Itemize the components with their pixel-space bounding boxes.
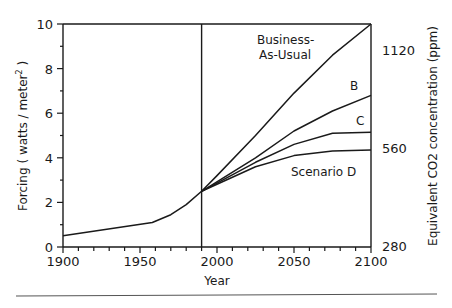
x-tick-label: 1900 <box>46 254 79 269</box>
y-tick-label: 0 <box>45 240 53 255</box>
right-tick-label: 560 <box>382 141 407 156</box>
y-tick-label: 8 <box>45 62 53 77</box>
y-axis-label: Forcing ( watts / meter2 ) <box>15 61 30 211</box>
series-historical <box>63 191 202 236</box>
x-tick-label: 2000 <box>200 254 233 269</box>
label-scenario-d: Scenario D <box>291 165 356 179</box>
x-tick-label: 1950 <box>123 254 156 269</box>
x-tick-label: 2100 <box>354 254 387 269</box>
y-tick-label: 2 <box>45 195 53 210</box>
right-tick-label: 1120 <box>382 43 415 58</box>
label-business-as-usual-1: Business- <box>257 33 314 47</box>
bottom-rule <box>16 294 437 296</box>
forcing-chart: 1900195020002050210002468102805601120 Fo… <box>0 0 452 308</box>
label-business-as-usual-2: As-Usual <box>259 48 311 62</box>
y-tick-label: 6 <box>45 106 53 121</box>
y-tick-label: 4 <box>45 151 53 166</box>
x-tick-label: 2050 <box>277 254 310 269</box>
data-series <box>63 24 371 236</box>
label-scenario-c: C <box>356 114 364 128</box>
right-axis-label: Equivalent CO2 concentration (ppm) <box>426 26 440 246</box>
x-axis-label: Year <box>203 274 229 288</box>
series-c <box>202 132 371 191</box>
right-tick-label: 280 <box>382 239 407 254</box>
label-scenario-b: B <box>350 79 358 93</box>
y-tick-label: 10 <box>36 17 53 32</box>
